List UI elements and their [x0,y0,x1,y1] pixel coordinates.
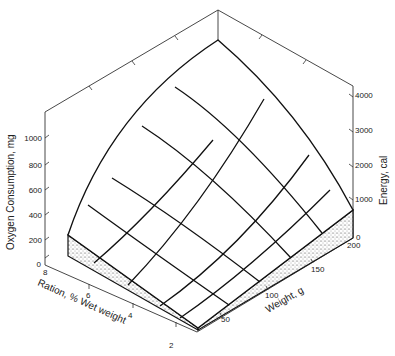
svg-text:1000: 1000 [24,134,42,143]
energy-axis [349,94,353,200]
svg-text:2000: 2000 [355,161,373,170]
svg-text:200: 200 [347,241,361,250]
ration-axis-label: Ration, % Wet weight [36,277,128,326]
svg-text:800: 800 [29,161,43,170]
svg-text:600: 600 [29,186,43,195]
svg-text:150: 150 [311,265,325,274]
svg-text:0: 0 [37,260,42,269]
surface-chart: 0 200 400 600 800 1000 Oxygen Consumptio… [0,0,395,356]
energy-tick-labels: 0 1000 2000 3000 4000 [355,91,373,242]
svg-text:4000: 4000 [355,91,373,100]
oxygen-tick-labels: 0 200 400 600 800 1000 [24,134,42,269]
svg-text:200: 200 [29,236,43,245]
svg-text:8: 8 [43,268,48,277]
svg-text:3000: 3000 [355,126,373,135]
svg-text:1000: 1000 [355,195,373,204]
oxygen-axis-label: Oxygen Consumption, mg [5,134,16,250]
energy-axis-label: Energy, cal [378,156,389,205]
svg-text:400: 400 [29,211,43,220]
oxygen-axis [45,135,49,258]
svg-text:2: 2 [169,341,174,350]
svg-text:50: 50 [221,315,230,324]
svg-text:4: 4 [128,311,133,320]
